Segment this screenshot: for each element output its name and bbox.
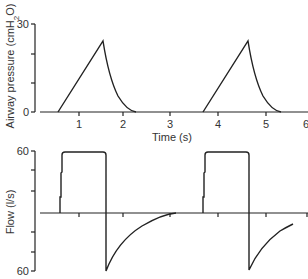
time-x-tick-label-6: 6 bbox=[303, 118, 308, 130]
pressure-waveform-cycle-1 bbox=[58, 41, 136, 112]
time-x-tick-label-5: 5 bbox=[263, 118, 269, 130]
flow-waveform-cycle-1 bbox=[60, 152, 176, 271]
flow-y-tick-label-top: 60 bbox=[17, 145, 29, 157]
flow-y-tick-label-bottom: 60 bbox=[17, 265, 29, 277]
time-x-axis-title: Time (s) bbox=[152, 131, 192, 143]
flow-chart: Flow (l/s) 60 60 bbox=[4, 145, 308, 277]
pressure-waveform-cycle-2 bbox=[203, 41, 281, 112]
time-x-tick-label-1: 1 bbox=[76, 118, 82, 130]
flow-y-axis-title: Flow (l/s) bbox=[4, 190, 16, 235]
time-x-tick-label-3: 3 bbox=[167, 118, 173, 130]
flow-waveform-cycle-2 bbox=[203, 152, 293, 270]
time-x-tick-label-2: 2 bbox=[120, 118, 126, 130]
time-x-tick-label-4: 4 bbox=[215, 118, 221, 130]
pressure-y-tick-label-0: 0 bbox=[23, 106, 29, 118]
pressure-y-tick-label-30: 30 bbox=[17, 18, 29, 30]
ventilator-waveform-figure: Airway pressure (cmH2O) 30 0 1 2 3 4 5 6… bbox=[0, 0, 308, 279]
pressure-chart: Airway pressure (cmH2O) 30 0 1 2 3 4 5 6… bbox=[4, 4, 308, 143]
